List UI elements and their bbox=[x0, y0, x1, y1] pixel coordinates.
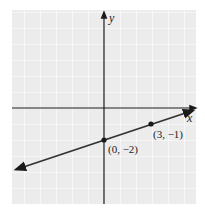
point-3-neg1 bbox=[148, 121, 153, 126]
y-axis-label: y bbox=[108, 11, 115, 25]
point-b-label: (3, −1) bbox=[153, 128, 183, 141]
point-a-label: (0, −2) bbox=[108, 143, 138, 156]
point-y-intercept bbox=[101, 137, 106, 142]
coordinate-plane: x y (0, −2) (3, −1) bbox=[0, 0, 205, 215]
